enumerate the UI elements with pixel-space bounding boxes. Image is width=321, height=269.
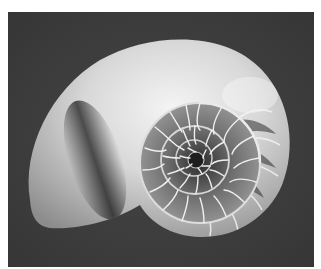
spiral-chambers	[140, 103, 260, 223]
nautilus-shell-image	[0, 0, 321, 269]
